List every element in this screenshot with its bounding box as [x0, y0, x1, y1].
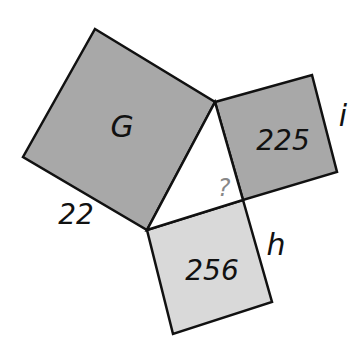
- square-h-label: 256: [185, 254, 238, 287]
- square-i-label: 225: [256, 124, 309, 157]
- side-label-i: i: [339, 98, 348, 133]
- side-label-22: 22: [58, 198, 94, 231]
- side-label-h: h: [266, 227, 285, 262]
- unknown-angle-label: ?: [218, 174, 231, 202]
- pythagorean-diagram: G 225 256 22 i h ?: [0, 0, 358, 364]
- square-g-label: G: [110, 109, 133, 144]
